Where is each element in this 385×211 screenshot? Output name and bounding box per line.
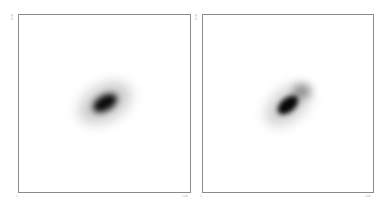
left-blob-canvas bbox=[19, 15, 191, 193]
left-density-plot bbox=[18, 14, 191, 193]
right-y-tick-max: 128 bbox=[195, 14, 198, 20]
right-blob-extension bbox=[293, 84, 311, 98]
right-density-plot bbox=[202, 14, 374, 193]
left-x-tick-min: 1 bbox=[16, 195, 18, 198]
left-y-tick-max: 128 bbox=[11, 14, 14, 20]
left-x-tick-max: 128 bbox=[182, 195, 188, 198]
right-x-tick-min: 1 bbox=[200, 195, 202, 198]
right-x-tick-max: 128 bbox=[365, 195, 371, 198]
right-blob-canvas bbox=[203, 15, 374, 193]
